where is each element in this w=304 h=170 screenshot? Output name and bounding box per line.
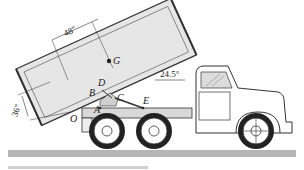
- label-b: B: [89, 87, 95, 98]
- ground: [8, 150, 296, 157]
- dimension-36-label: 36″: [9, 103, 23, 119]
- label-d: D: [97, 77, 106, 88]
- label-g: G: [113, 55, 120, 66]
- dimension-48-label: 48″: [62, 24, 78, 38]
- caption-strip: [8, 166, 148, 169]
- center-of-gravity-point: [107, 59, 111, 63]
- label-c: C: [117, 92, 124, 103]
- front-wheel: [238, 113, 274, 149]
- label-a: A: [93, 104, 101, 115]
- angle-label: 24.5°: [160, 69, 180, 79]
- dump-truck-diagram: 48″ 36″ G 24.5° D B C A E O: [0, 0, 304, 170]
- dump-body: [14, 0, 197, 125]
- rear-wheel-1: [89, 113, 125, 149]
- label-e: E: [142, 95, 149, 106]
- label-o: O: [70, 113, 77, 124]
- rear-wheel-2: [136, 113, 172, 149]
